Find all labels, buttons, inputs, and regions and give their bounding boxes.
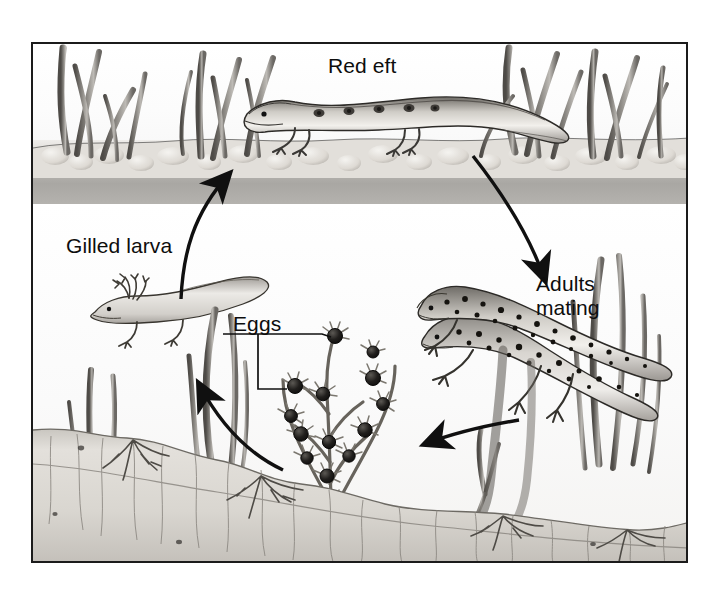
label-adults-mating-line1: Adults (536, 272, 595, 296)
gilled-larva-figure (91, 274, 269, 348)
adults-mating-figure (417, 286, 672, 522)
label-gilled-larva: Gilled larva (66, 234, 172, 258)
substrate-and-roots (33, 429, 688, 563)
label-red-eft: Red eft (328, 54, 396, 78)
arrow-adults-to-eggs (425, 420, 519, 444)
eggs-leader-line (223, 334, 331, 389)
illustration-canvas: Red eft Gilled larva Eggs Adults mating (0, 0, 717, 594)
label-adults-mating-line2: mating (536, 296, 600, 320)
arrow-larva-to-eft (181, 174, 229, 299)
figure-frame: Red eft Gilled larva Eggs Adults mating (31, 42, 688, 563)
label-eggs: Eggs (233, 312, 281, 336)
